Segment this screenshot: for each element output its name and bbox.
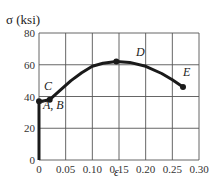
point-label-e: E — [182, 65, 191, 79]
y-tick-label: 80 — [24, 27, 36, 39]
y-tick-label: 40 — [24, 91, 36, 103]
x-tick-label: 0.20 — [136, 163, 156, 175]
point-label-c: C — [44, 79, 53, 93]
grid-lines — [39, 33, 199, 160]
y-tick-label: 60 — [24, 59, 36, 71]
point-label-d: D — [135, 45, 145, 59]
y-axis-label: σ (ksi) — [6, 12, 40, 27]
x-tick-label: 0.30 — [189, 163, 209, 175]
x-tick-label: 0.05 — [56, 163, 76, 175]
stress-strain-curve — [39, 62, 183, 102]
x-tick-label: 0.25 — [163, 163, 183, 175]
x-axis-label: ε — [114, 165, 119, 179]
point-marker — [113, 59, 119, 65]
point-label-ab: A, B — [42, 98, 64, 112]
y-tick-label: 0 — [30, 154, 36, 166]
x-tick-label: 0.15 — [109, 163, 129, 175]
x-tick-label: 0 — [36, 163, 42, 175]
stress-strain-chart: 00.050.100.150.200.250.30020406080 σ (ks… — [0, 0, 221, 185]
x-tick-label: 0.10 — [83, 163, 103, 175]
y-tick-label: 20 — [24, 122, 36, 134]
point-marker — [180, 84, 186, 90]
